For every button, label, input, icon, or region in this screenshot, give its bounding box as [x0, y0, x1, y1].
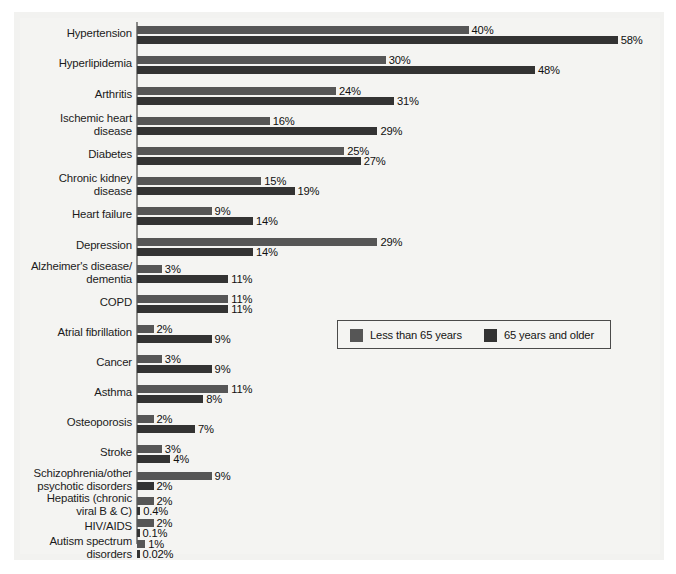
bar-over65 — [137, 365, 212, 373]
category-label: Stroke — [0, 446, 132, 459]
bar-value-label: 31% — [397, 96, 419, 107]
legend-swatch-icon — [484, 329, 497, 342]
bar-under65 — [137, 147, 344, 155]
bar-value-label: 3% — [165, 354, 181, 365]
bar-over65 — [137, 305, 228, 313]
bar-value-label: 2% — [157, 414, 173, 425]
bar-value-label: 9% — [215, 334, 231, 345]
category-label: Chronic kidney disease — [0, 172, 132, 198]
bar-over65 — [137, 66, 535, 74]
bar-under65 — [137, 355, 162, 363]
bar-value-label: 14% — [256, 216, 278, 227]
bar-under65 — [137, 295, 228, 303]
bar-under65 — [137, 117, 270, 125]
chart-legend: Less than 65 years65 years and older — [337, 320, 611, 349]
legend-swatch-icon — [350, 329, 363, 342]
category-label: COPD — [0, 296, 132, 309]
bar-under65 — [137, 265, 162, 273]
category-label: Heart failure — [0, 208, 132, 221]
bar-under65 — [137, 497, 154, 505]
bar-over65 — [137, 275, 228, 283]
bar-value-label: 9% — [215, 206, 231, 217]
legend-item: Less than 65 years — [350, 326, 462, 344]
bar-value-label: 8% — [206, 394, 222, 405]
legend-label: Less than 65 years — [370, 329, 462, 341]
bar-under65 — [137, 415, 154, 423]
category-label: Alzheimer's disease/ dementia — [0, 260, 132, 286]
category-label: Osteoporosis — [0, 416, 132, 429]
bar-over65 — [137, 127, 377, 135]
category-label: Schizophrenia/other psychotic disorders — [0, 467, 132, 493]
category-label: Ischemic heart disease — [0, 112, 132, 138]
bar-value-label: 2% — [157, 481, 173, 492]
bar-value-label: 14% — [256, 247, 278, 258]
bar-value-label: 19% — [298, 186, 320, 197]
bar-under65 — [137, 519, 154, 527]
bar-value-label: 11% — [231, 384, 252, 395]
category-label: Cancer — [0, 356, 132, 369]
bar-under65 — [137, 238, 377, 246]
bar-under65 — [137, 87, 336, 95]
bar-over65 — [137, 550, 140, 558]
bar-value-label: 27% — [364, 156, 386, 167]
category-label: Hepatitis (chronic viral B & C) — [0, 492, 132, 518]
category-label: Depression — [0, 239, 132, 252]
bar-value-label: 11% — [231, 304, 252, 315]
bar-value-label: 58% — [621, 35, 643, 46]
bar-value-label: 24% — [339, 86, 361, 97]
bar-over65 — [137, 187, 295, 195]
bar-over65 — [137, 482, 154, 490]
category-label: Hyperlipidemia — [0, 57, 132, 70]
bar-value-label: 40% — [472, 25, 494, 36]
bar-value-label: 29% — [380, 126, 402, 137]
bar-over65 — [137, 97, 394, 105]
category-label: Atrial fibrillation — [0, 326, 132, 339]
bar-under65 — [137, 207, 212, 215]
bar-under65 — [137, 540, 145, 548]
bar-value-label: 29% — [380, 237, 402, 248]
category-label: HIV/AIDS — [0, 520, 132, 533]
category-label: Arthritis — [0, 88, 132, 101]
bar-under65 — [137, 26, 469, 34]
bar-value-label: 11% — [231, 274, 252, 285]
chart-figure: Hypertension40%58%Hyperlipidemia30%48%Ar… — [0, 0, 676, 574]
bar-value-label: 7% — [198, 424, 214, 435]
bar-chart-plot-area: Hypertension40%58%Hyperlipidemia30%48%Ar… — [0, 0, 676, 574]
bar-under65 — [137, 177, 261, 185]
bar-value-label: 30% — [389, 55, 411, 66]
bar-value-label: 0.02% — [143, 549, 174, 560]
bar-under65 — [137, 445, 162, 453]
category-label: Hypertension — [0, 27, 132, 40]
legend-item: 65 years and older — [484, 326, 594, 344]
category-label: Asthma — [0, 386, 132, 399]
bar-over65 — [137, 425, 195, 433]
bar-over65 — [137, 335, 212, 343]
bar-value-label: 15% — [264, 176, 286, 187]
bar-value-label: 48% — [538, 65, 560, 76]
bar-value-label: 9% — [215, 364, 231, 375]
bar-over65 — [137, 395, 203, 403]
bar-value-label: 16% — [273, 116, 295, 127]
bar-value-label: 9% — [215, 471, 231, 482]
category-label: Autism spectrum disorders — [0, 535, 132, 561]
bar-under65 — [137, 472, 212, 480]
bar-value-label: 2% — [157, 324, 173, 335]
bar-value-label: 0.4% — [143, 506, 168, 517]
category-label: Diabetes — [0, 148, 132, 161]
bar-over65 — [137, 248, 253, 256]
bar-value-label: 3% — [165, 264, 181, 275]
bar-over65 — [137, 157, 361, 165]
bar-over65 — [137, 36, 618, 44]
bar-under65 — [137, 385, 228, 393]
bar-under65 — [137, 56, 386, 64]
bar-over65 — [137, 529, 140, 537]
legend-label: 65 years and older — [504, 329, 594, 341]
bar-value-label: 4% — [173, 454, 189, 465]
bar-over65 — [137, 507, 140, 515]
bar-under65 — [137, 325, 154, 333]
bar-over65 — [137, 217, 253, 225]
bar-over65 — [137, 455, 170, 463]
